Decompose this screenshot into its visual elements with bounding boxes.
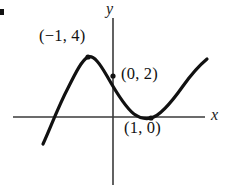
- cubic-graph-figure: y x (−1, 4) (0, 2) (1, 0): [0, 0, 233, 191]
- x-axis-label: x: [211, 107, 218, 123]
- label-local-minimum: (1, 0): [124, 120, 161, 137]
- plot-canvas: [0, 0, 233, 191]
- point-y-intercept: [110, 73, 115, 78]
- label-y-intercept: (0, 2): [121, 66, 158, 83]
- y-axis-label: y: [106, 1, 113, 17]
- label-local-maximum: (−1, 4): [39, 28, 85, 45]
- point-local-maximum: [85, 54, 90, 59]
